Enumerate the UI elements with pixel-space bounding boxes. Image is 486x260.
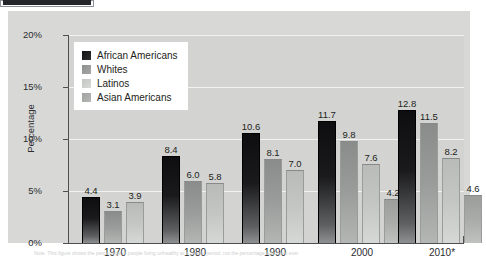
x-axis-right-cap xyxy=(463,236,464,244)
bar-1990-latinos: 7.0 xyxy=(286,170,304,243)
legend-label: Whites xyxy=(97,64,128,75)
bar-2010-whites: 11.5 xyxy=(420,123,438,243)
bar-value: 8.1 xyxy=(266,147,279,158)
y-tick-label-20: 20% xyxy=(23,29,42,40)
bar-value: 12.8 xyxy=(398,98,417,109)
bar-1980-latinos: 5.8 xyxy=(206,183,224,243)
bar-1980-african-americans: 8.4 xyxy=(162,156,180,243)
bar-1970-african-americans: 4.4 xyxy=(82,197,100,243)
bar-1980-whites: 6.0 xyxy=(184,181,202,243)
bar-group-2000: 11.7 9.8 7.6 4.2 xyxy=(318,35,406,243)
legend-swatch-latinos-icon xyxy=(82,79,91,88)
bar-2000-whites: 9.8 xyxy=(340,141,358,243)
bar-2000-latinos: 7.6 xyxy=(362,164,380,243)
y-tick-mark-5 xyxy=(63,191,68,192)
y-tick-mark-15 xyxy=(63,87,68,88)
chart-legend: African Americans Whites Latinos Asian A… xyxy=(74,42,188,110)
bar-value: 7.0 xyxy=(288,158,301,169)
bar-value: 11.7 xyxy=(318,109,336,120)
legend-item-african-americans[interactable]: African Americans xyxy=(82,48,178,62)
bar-group-1990: 10.6 8.1 7.0 xyxy=(242,35,308,243)
bar-1990-african-americans: 10.6 xyxy=(242,133,260,243)
legend-swatch-asian-americans-icon xyxy=(82,93,91,102)
bar-2000-african-americans: 11.7 xyxy=(318,121,336,243)
legend-item-asian-americans[interactable]: Asian Americans xyxy=(82,90,178,104)
figure-caption: Note: This figure shows the percentage o… xyxy=(34,250,454,256)
bar-2010-latinos: 8.2 xyxy=(442,158,460,243)
bar-2010-african-americans: 12.8 xyxy=(398,110,416,243)
bar-value: 10.6 xyxy=(242,121,261,132)
legend-swatch-african-americans-icon xyxy=(82,51,91,60)
chart-panel: 4.4 3.1 3.9 8.4 xyxy=(8,11,470,243)
bar-value: 11.5 xyxy=(420,111,438,122)
legend-label: African Americans xyxy=(97,50,178,61)
bar-value: 8.4 xyxy=(164,144,177,155)
legend-swatch-whites-icon xyxy=(82,65,91,74)
bar-2010-asian-americans: 4.6 xyxy=(464,195,482,243)
bar-value: 7.6 xyxy=(364,152,377,163)
bar-group-2010: 12.8 11.5 8.2 4.6 xyxy=(398,35,486,243)
legend-label: Asian Americans xyxy=(97,92,171,103)
bar-1990-whites: 8.1 xyxy=(264,159,282,243)
x-axis-line xyxy=(68,243,464,244)
bar-value: 6.0 xyxy=(186,169,199,180)
y-tick-label-0: 0% xyxy=(28,237,42,248)
bar-value: 4.6 xyxy=(466,183,479,194)
bar-value: 3.1 xyxy=(106,199,119,210)
bar-1970-latinos: 3.9 xyxy=(126,202,144,243)
bar-value: 9.8 xyxy=(342,129,355,140)
legend-item-whites[interactable]: Whites xyxy=(82,62,178,76)
legend-label: Latinos xyxy=(97,78,129,89)
y-tick-mark-0 xyxy=(63,243,68,244)
bar-value: 4.4 xyxy=(84,185,97,196)
legend-item-latinos[interactable]: Latinos xyxy=(82,76,178,90)
bar-value: 3.9 xyxy=(128,190,141,201)
bar-1970-whites: 3.1 xyxy=(104,211,122,243)
y-axis-title: Percentage xyxy=(25,89,36,169)
scan-artifact-bar xyxy=(3,0,91,5)
y-tick-label-5: 5% xyxy=(28,185,42,196)
bar-value: 8.2 xyxy=(444,146,457,157)
y-tick-mark-10 xyxy=(63,139,68,140)
bar-value: 5.8 xyxy=(208,171,221,182)
y-tick-mark-20 xyxy=(63,35,68,36)
y-axis-line xyxy=(68,35,69,244)
